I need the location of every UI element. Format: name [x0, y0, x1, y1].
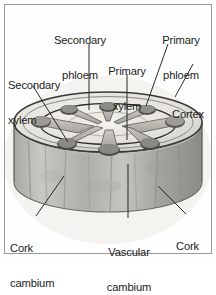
- label-line: Primary: [150, 35, 212, 47]
- label-line: Cortex: [172, 109, 216, 121]
- label-line: Secondary: [8, 80, 82, 92]
- label-line: xylem: [98, 101, 156, 113]
- label-cork: Cork: [176, 218, 212, 276]
- label-line: Cork: [10, 243, 82, 255]
- label-secondary-xylem: Secondary xylem: [8, 57, 82, 150]
- label-line: Vascular: [98, 247, 160, 259]
- label-cork-cambium: Cork cambium: [10, 220, 82, 295]
- label-line: cambium: [98, 282, 160, 294]
- label-line: xylem: [8, 115, 82, 127]
- label-primary-xylem: Primary xylem: [98, 43, 156, 136]
- label-line: Primary: [98, 66, 156, 78]
- label-line: Cork: [176, 241, 212, 253]
- label-line: phloem: [150, 70, 212, 82]
- label-line: cambium: [10, 278, 82, 290]
- label-cortex: Cortex: [172, 86, 216, 144]
- label-vascular-cambium: Vascular cambium: [98, 224, 160, 295]
